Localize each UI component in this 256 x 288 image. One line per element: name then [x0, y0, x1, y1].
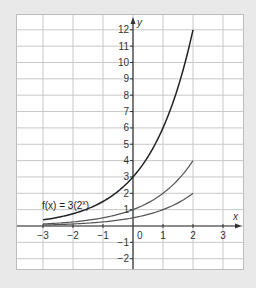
- x-tick-label: −3: [37, 230, 49, 241]
- y-tick-label: 9: [123, 73, 129, 84]
- x-tick-label: 1: [160, 230, 166, 241]
- x-tick-label: −1: [97, 230, 109, 241]
- x-tick-label: −2: [67, 230, 79, 241]
- grid-lines: [17, 15, 243, 269]
- y-tick-label: 10: [118, 57, 130, 68]
- axes: xy: [17, 17, 242, 269]
- x-axis-label: x: [232, 211, 239, 222]
- exponential-chart: xy −3−2−11230−2−1123456789101112 f(x) = …: [0, 0, 256, 288]
- y-tick-label: −2: [118, 253, 130, 264]
- y-axis-label: y: [136, 17, 143, 28]
- origin-label: 0: [137, 230, 143, 241]
- y-tick-label: 7: [123, 106, 129, 117]
- function-label: f(x) = 3(2x): [42, 199, 89, 211]
- y-tick-label: 12: [118, 24, 130, 35]
- y-axis-arrow-icon: [131, 17, 136, 24]
- y-tick-label: 4: [123, 155, 129, 166]
- y-tick-label: 5: [123, 139, 129, 150]
- y-tick-label: 6: [123, 122, 129, 133]
- y-tick-label: −1: [118, 237, 130, 248]
- function-annotation: f(x) = 3(2x): [42, 199, 89, 211]
- x-axis-arrow-icon: [235, 224, 242, 229]
- y-tick-label: 2: [123, 188, 129, 199]
- y-tick-label: 8: [123, 90, 129, 101]
- x-tick-label: 2: [190, 230, 196, 241]
- y-tick-label: 11: [119, 41, 130, 52]
- curve-1: [43, 161, 193, 224]
- x-tick-label: 3: [220, 230, 226, 241]
- y-tick-label: 1: [123, 204, 129, 215]
